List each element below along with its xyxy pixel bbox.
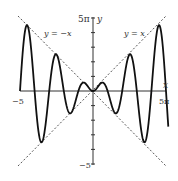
- y-top-label: 5π: [78, 14, 90, 24]
- x-axis-label: x: [163, 80, 168, 90]
- y-axis-label: y: [96, 14, 103, 24]
- x-right-label: 5π: [159, 97, 169, 106]
- chart: 5π y −5 −5 5π x y = −x y = x: [0, 0, 178, 181]
- line-neg-label: y = −x: [43, 29, 72, 38]
- curve-x-sin-x: [20, 25, 168, 142]
- line-pos-label: y = x: [123, 29, 145, 38]
- y-bottom-label: −5: [79, 161, 91, 170]
- x-left-label: −5: [12, 97, 24, 106]
